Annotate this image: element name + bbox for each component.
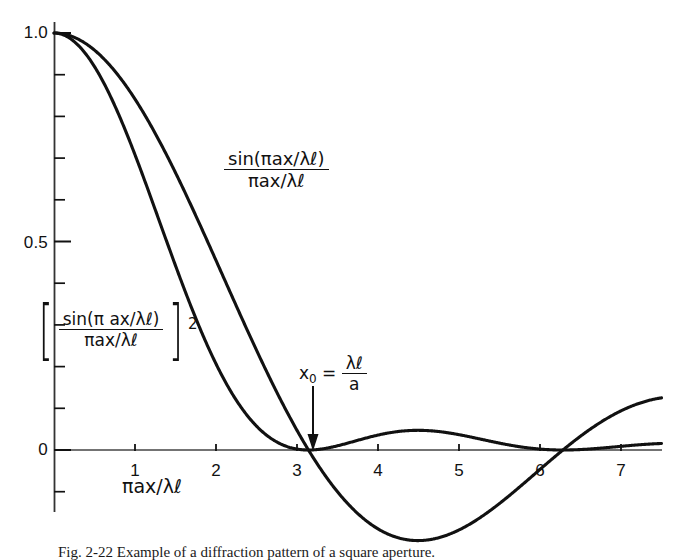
- x-axis-tick-label-6: 6: [528, 462, 552, 479]
- curve-label-sinc-squared: [ sin(π ax/λℓ) πax/λℓ ]2: [33, 300, 198, 361]
- x-axis-tick-label-3: 3: [285, 462, 309, 479]
- axes-group: [54, 22, 662, 512]
- sq-label-num-prefix: sin: [63, 309, 87, 329]
- sq-label-exponent: 2: [188, 317, 198, 332]
- x-axis-tick-label-4: 4: [366, 462, 390, 479]
- sinc-label-den: πax/λℓ: [248, 170, 305, 191]
- y-axis-tick-label-0-5: 0.5: [12, 234, 48, 251]
- x-axis-tick-label-5: 5: [447, 462, 471, 479]
- y-axis-tick-label-1: 1.0: [12, 24, 48, 41]
- curve-label-sinc: sin(πax/λℓ) πax/λℓ: [224, 150, 329, 190]
- y-axis-tick-label-0: 0: [12, 441, 48, 458]
- sq-label-num-inner: π ax/λℓ: [94, 309, 153, 329]
- x0-symbol: x: [299, 363, 309, 383]
- figure-caption: Fig. 2-22 Example of a diffraction patte…: [58, 545, 435, 560]
- x0-denominator: a: [349, 374, 359, 394]
- x0-numerator: λℓ: [346, 353, 363, 373]
- sinc-label-num-inner: πax/λℓ: [261, 148, 318, 169]
- x0-annotation-arrow: [308, 386, 319, 451]
- left-bracket: [: [39, 300, 53, 361]
- sinc-label-num-prefix: sin: [228, 148, 254, 169]
- sq-label-den: πax/λℓ: [84, 330, 138, 350]
- x-axis-tick-label-2: 2: [204, 462, 228, 479]
- x-axis-label: πax/λℓ: [122, 477, 182, 496]
- x0-subscript: 0: [309, 373, 317, 385]
- right-bracket: ]: [169, 300, 183, 361]
- y-axis-ticks: [54, 33, 71, 492]
- x-axis-tick-label-7: 7: [609, 462, 633, 479]
- x0-equals: =: [322, 363, 336, 383]
- annotation-x0-label: x0 = λℓ a: [299, 355, 367, 393]
